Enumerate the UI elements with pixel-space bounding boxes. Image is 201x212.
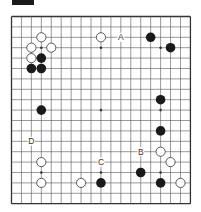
black-stone: [146, 33, 156, 43]
black-stone: [96, 178, 106, 188]
black-stone: [136, 168, 146, 178]
white-stone: [176, 178, 185, 187]
point-label-d: D: [28, 136, 34, 146]
star-point: [40, 171, 43, 174]
point-label-a: A: [118, 32, 124, 42]
star-point: [159, 171, 162, 174]
white-stone: [76, 178, 85, 187]
star-point: [159, 109, 162, 112]
star-point: [159, 46, 162, 49]
black-stone: [37, 105, 47, 115]
white-stone: [27, 54, 36, 63]
white-stone: [37, 178, 46, 187]
star-point: [100, 46, 103, 49]
black-stone: [166, 43, 176, 53]
black-stone: [37, 64, 47, 74]
black-stone: [37, 53, 47, 63]
point-label-b: B: [138, 147, 144, 157]
white-stone: [47, 43, 56, 52]
white-stone: [166, 158, 175, 167]
white-stone: [156, 147, 165, 156]
black-stone: [156, 178, 166, 188]
white-stone: [37, 158, 46, 167]
go-board-svg: ABCD: [0, 0, 201, 212]
go-board: ABCD: [0, 0, 201, 212]
black-stone: [156, 95, 166, 105]
star-point: [100, 109, 103, 112]
star-point: [40, 46, 43, 49]
black-stone: [27, 64, 37, 74]
black-stone: [156, 126, 166, 136]
star-point: [100, 171, 103, 174]
point-label-c: C: [98, 157, 104, 167]
white-stone: [96, 33, 105, 42]
white-stone: [37, 33, 46, 42]
white-stone: [27, 43, 36, 52]
